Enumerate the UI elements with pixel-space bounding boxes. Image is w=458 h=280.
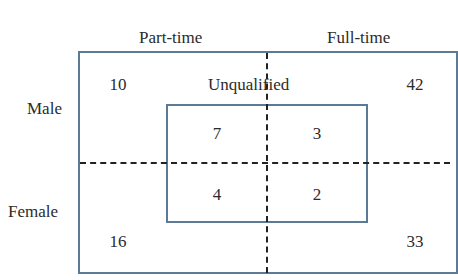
count-female-full-time: 33 [407,233,424,250]
horizontal-divider [80,162,450,164]
unqualified-female-full-time: 2 [313,186,322,203]
count-female-part-time: 16 [110,233,127,250]
column-header-full-time: Full-time [327,29,390,46]
row-header-male: Male [27,100,62,117]
unqualified-female-part-time: 4 [213,186,222,203]
unqualified-label: Unqualified [208,76,289,93]
unqualified-male-full-time: 3 [313,125,322,142]
column-header-part-time: Part-time [139,29,202,46]
count-male-full-time: 42 [407,76,424,93]
unqualified-male-part-time: 7 [213,125,222,142]
count-male-part-time: 10 [110,76,127,93]
row-header-female: Female [8,203,58,220]
